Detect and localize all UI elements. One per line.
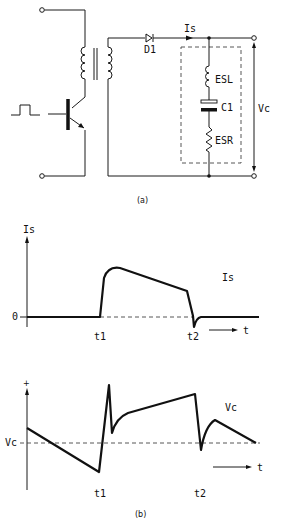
input-pulse-icon [11, 105, 40, 115]
vc-plus-label: + [23, 379, 30, 388]
primary-coil [81, 47, 85, 79]
current-graph: Is 0 t1 t2 t Is [12, 224, 259, 342]
vc-t1-label: t1 [94, 488, 106, 499]
diode-label: D1 [144, 44, 156, 55]
wire-secondary-bottom [108, 79, 252, 176]
caption-a: (a) [137, 196, 148, 205]
terminal-top-right [252, 36, 257, 41]
figure: D1 Is ESL C1 ESR Vc (a) Is [0, 0, 281, 527]
is-y-axis-label: Is [23, 224, 35, 235]
capacitor-plate-positive [201, 100, 217, 103]
capacitor-label: C1 [221, 102, 233, 113]
vc-curve-label: Vc [225, 402, 237, 413]
vc-waveform [27, 385, 256, 472]
circuit-diagram: D1 Is ESL C1 ESR Vc (a) [11, 8, 270, 205]
is-time-label: t [243, 325, 249, 336]
voltage-label: Vc [258, 103, 270, 114]
terminal-bottom-left [40, 174, 45, 179]
is-curve-label: Is [222, 272, 234, 283]
wire-collector [72, 79, 85, 108]
esr-resistor [206, 127, 212, 152]
terminal-bottom-right [252, 174, 257, 179]
caption-b: (b) [135, 510, 146, 519]
esl-label: ESL [215, 74, 233, 85]
wire-secondary-top [108, 38, 145, 47]
wire-primary-top [45, 10, 86, 47]
voltage-arrow-up-icon [252, 42, 256, 48]
wire-emitter-bottom [45, 130, 86, 176]
is-zero-label: 0 [12, 311, 18, 322]
vc-time-arrow-icon [246, 465, 252, 469]
is-t1-label: t1 [94, 331, 106, 342]
is-t2-label: t2 [187, 331, 199, 342]
current-arrow-icon [186, 36, 193, 41]
is-time-arrow-icon [232, 328, 238, 332]
is-axis-arrow-icon [25, 236, 29, 243]
secondary-coil [108, 47, 112, 79]
esl-inductor [206, 66, 210, 87]
capacitor-plate-negative [201, 108, 217, 112]
voltage-graph: + Vc t1 t2 t Vc (b) [5, 379, 263, 519]
vc-ref-label: Vc [5, 437, 17, 448]
diode-icon [146, 34, 152, 42]
esr-label: ESR [215, 135, 234, 146]
vc-t2-label: t2 [194, 488, 206, 499]
vc-axis-arrow-icon [25, 388, 29, 395]
vc-time-label: t [257, 462, 263, 473]
terminal-top-left [40, 8, 45, 13]
current-label: Is [184, 23, 196, 34]
voltage-arrow-down-icon [252, 166, 256, 172]
